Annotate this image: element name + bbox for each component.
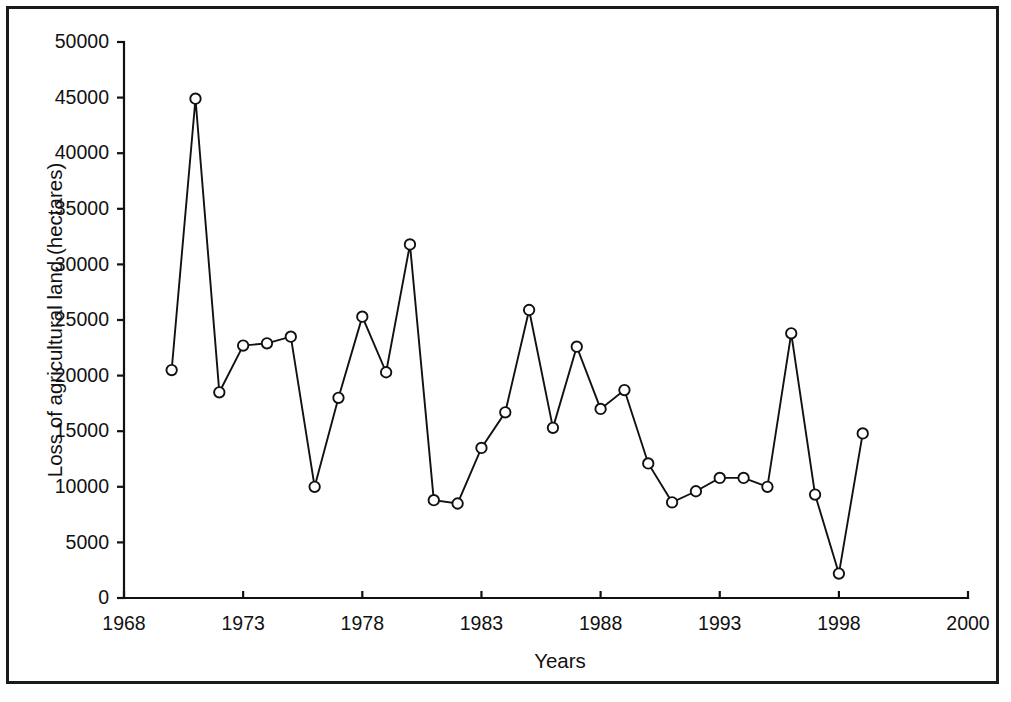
data-point-marker — [762, 482, 772, 492]
data-point-marker — [786, 328, 796, 338]
series-line-loss — [172, 99, 863, 574]
data-point-marker — [691, 486, 701, 496]
data-point-marker — [834, 568, 844, 578]
data-point-marker — [357, 311, 367, 321]
data-point-marker — [810, 489, 820, 499]
data-point-marker — [738, 473, 748, 483]
data-point-marker — [452, 498, 462, 508]
data-point-marker — [715, 473, 725, 483]
y-tick-label: 45000 — [55, 86, 109, 108]
y-tick-label: 40000 — [55, 141, 109, 163]
data-point-marker — [595, 404, 605, 414]
data-point-marker — [858, 428, 868, 438]
data-point-marker — [667, 497, 677, 507]
data-point-marker — [286, 331, 296, 341]
y-tick-label: 50000 — [55, 30, 109, 52]
data-point-marker — [476, 443, 486, 453]
x-tick-label: 1998 — [817, 612, 860, 634]
x-axis: 19681973197819831988199319982000 Years — [102, 591, 990, 672]
data-point-marker — [429, 495, 439, 505]
y-axis: 0500010000150002000025000300003500040000… — [43, 30, 125, 608]
line-chart: 0500010000150002000025000300003500040000… — [0, 0, 1011, 702]
data-point-marker — [238, 340, 248, 350]
x-tick-label: 2000 — [946, 612, 990, 634]
data-point-marker — [643, 458, 653, 468]
y-axis-title: Loss of agricultural land (hectares) — [43, 163, 66, 478]
x-axis-title: Years — [534, 649, 586, 672]
data-point-marker — [524, 305, 534, 315]
series-markers — [166, 94, 867, 579]
data-point-marker — [309, 482, 319, 492]
data-point-marker — [572, 341, 582, 351]
y-tick-label: 0 — [98, 586, 109, 608]
x-tick-label: 1973 — [221, 612, 264, 634]
x-axis-tick-labels: 19681973197819831988199319982000 — [102, 612, 990, 634]
x-tick-label: 1978 — [341, 612, 384, 634]
data-point-marker — [262, 338, 272, 348]
x-tick-label: 1993 — [698, 612, 741, 634]
y-tick-label: 5000 — [66, 531, 110, 553]
y-tick-label: 10000 — [55, 475, 109, 497]
x-tick-label: 1983 — [460, 612, 503, 634]
data-point-marker — [214, 387, 224, 397]
data-point-marker — [500, 407, 510, 417]
data-point-marker — [619, 385, 629, 395]
data-series-group — [166, 94, 867, 579]
figure-container: 0500010000150002000025000300003500040000… — [0, 0, 1011, 702]
data-point-marker — [190, 94, 200, 104]
data-point-marker — [548, 423, 558, 433]
data-point-marker — [381, 367, 391, 377]
x-tick-label: 1988 — [579, 612, 622, 634]
data-point-marker — [405, 239, 415, 249]
data-point-marker — [166, 365, 176, 375]
x-tick-label: 1968 — [102, 612, 145, 634]
data-point-marker — [333, 393, 343, 403]
